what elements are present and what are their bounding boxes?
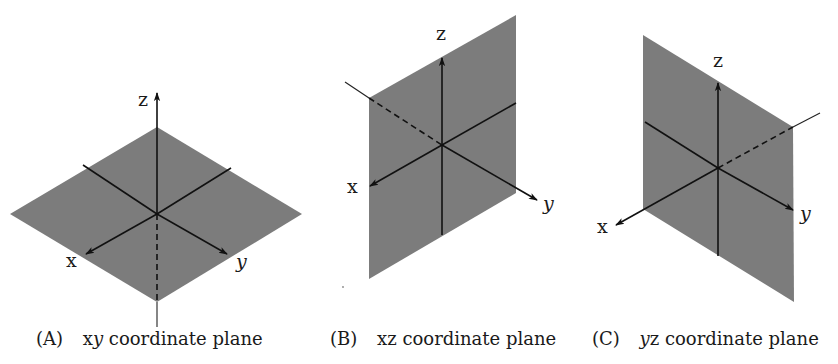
caption-a-var-2: y [93,328,103,349]
x-axis-label: x [347,175,358,197]
caption-c-variables: yz [640,328,660,349]
caption-a-var-1: x [83,328,93,349]
z-axis-label: z [713,49,723,71]
caption-a-text: coordinate plane [109,328,263,349]
caption-a-variables: xy [83,328,103,349]
caption-b: (B) xz coordinate plane [330,328,556,349]
y-axis-negative-outside [793,113,820,127]
caption-c-text: coordinate plane [665,328,819,349]
y-axis-label: y [799,202,811,224]
z-axis-label: z [138,88,148,110]
x-axis-negative-outside [345,82,369,98]
caption-a-tag: (A) [36,328,63,349]
caption-b-tag: (B) [330,328,357,349]
x-axis-label: x [597,215,608,237]
y-axis-label: y [235,250,247,272]
panel-a-xy-plane: z x y [10,88,302,327]
caption-c-var-2: z [650,328,659,349]
z-axis-label: z [436,22,446,44]
panel-b-xz-plane: z x y [342,15,554,288]
caption-b-text: coordinate plane [402,328,556,349]
x-axis-label: x [66,249,77,271]
caption-a: (A) xy coordinate plane [36,328,263,349]
caption-b-variables: xz [377,328,397,349]
caption-c-var-1: y [640,328,650,349]
caption-c-tag: (C) [592,328,620,349]
y-axis-label: y [542,192,554,214]
speck [342,286,344,288]
panel-c-yz-plane: z x y [597,35,820,302]
caption-c: (C) yz coordinate plane [592,328,819,349]
coordinate-planes-figure: z x y z x y z x [0,0,838,364]
